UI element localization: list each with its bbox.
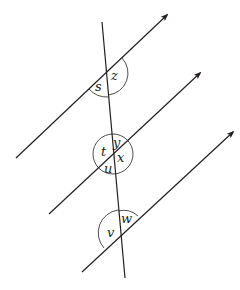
angle-label-t: t [101,144,107,159]
parallel-line-1 [16,15,167,158]
angle-label-s: s [95,79,102,94]
parallel-line-2 [49,73,200,214]
angle-label-v: v [107,225,115,240]
angle-label-x: x [117,150,125,165]
angle-label-y: y [112,135,121,150]
angle-label-u: u [104,161,112,176]
parallel-lines-diagram: s z y t x u v w [0,0,240,290]
angle-label-z: z [110,68,118,83]
angle-label-w: w [121,211,132,226]
